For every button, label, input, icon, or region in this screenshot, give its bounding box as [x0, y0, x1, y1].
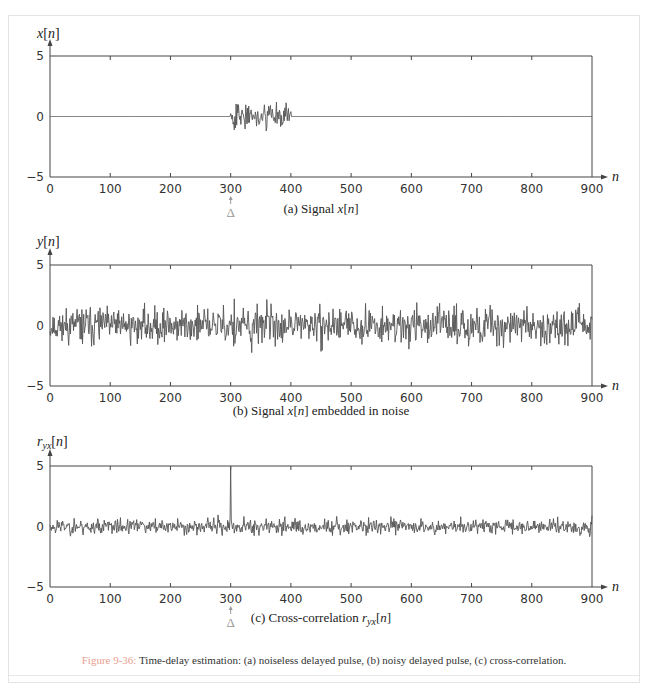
delta-arrow-icon	[229, 606, 233, 610]
y-axis-label: x[n]	[36, 26, 60, 41]
x-tick-label: 700	[460, 592, 483, 606]
figure-plots: 0100200300400500600700800900−505x[n]nΔ(a…	[0, 0, 648, 685]
y-tick-label: 0	[36, 319, 44, 333]
x-axis-label: n	[612, 378, 619, 393]
y-axis-arrow-icon	[48, 248, 53, 255]
x-axis-label: n	[612, 579, 619, 594]
signal-trace	[50, 299, 592, 353]
y-tick-label: 5	[36, 49, 44, 63]
panel-subtitle: (a) Signal x[n]	[283, 201, 358, 216]
delta-arrow-icon	[229, 196, 233, 200]
x-tick-label: 800	[520, 182, 543, 196]
x-tick-label: 100	[99, 592, 122, 606]
x-tick-label: 900	[581, 592, 604, 606]
x-tick-label: 400	[279, 182, 302, 196]
y-axis-label: ryx[n]	[37, 434, 68, 451]
y-tick-label: 5	[36, 258, 44, 272]
x-tick-label: 800	[520, 592, 543, 606]
x-axis-arrow-icon	[601, 384, 608, 389]
x-tick-label: 200	[159, 391, 182, 405]
y-tick-label: −5	[26, 170, 44, 184]
x-tick-label: 200	[159, 592, 182, 606]
x-tick-label: 0	[46, 592, 54, 606]
x-tick-label: 600	[400, 592, 423, 606]
x-tick-label: 300	[219, 592, 242, 606]
x-tick-label: 900	[581, 182, 604, 196]
x-tick-label: 400	[279, 592, 302, 606]
panel-b: 0100200300400500600700800900−505y[n]n(b)…	[26, 234, 619, 418]
delta-label: Δ	[226, 615, 234, 630]
x-tick-label: 0	[46, 182, 54, 196]
figure-caption: Figure 9-36: Time-delay estimation: (a) …	[0, 654, 648, 666]
x-tick-label: 700	[460, 391, 483, 405]
y-tick-label: 5	[36, 459, 44, 473]
y-tick-label: −5	[26, 379, 44, 393]
x-tick-label: 700	[460, 182, 483, 196]
x-tick-label: 800	[520, 391, 543, 405]
y-axis-label: y[n]	[35, 234, 60, 249]
x-tick-label: 600	[400, 182, 423, 196]
caption-divider	[9, 675, 639, 676]
figure-caption-text: Time-delay estimation: (a) noiseless del…	[136, 654, 566, 666]
delta-label: Δ	[226, 205, 234, 220]
y-tick-label: 0	[36, 110, 44, 124]
x-axis-arrow-icon	[601, 585, 608, 590]
x-tick-label: 200	[159, 182, 182, 196]
panel-subtitle: (b) Signal x[n] embedded in noise	[233, 403, 410, 418]
y-tick-label: 0	[36, 520, 44, 534]
x-axis-arrow-icon	[601, 175, 608, 180]
x-axis-label: n	[612, 169, 619, 184]
signal-trace	[50, 466, 592, 537]
panel-c: 0100200300400500600700800900−505ryx[n]nΔ…	[26, 434, 619, 630]
x-tick-label: 100	[99, 182, 122, 196]
x-tick-label: 900	[581, 391, 604, 405]
panel-a: 0100200300400500600700800900−505x[n]nΔ(a…	[26, 26, 619, 220]
x-tick-label: 500	[340, 182, 363, 196]
panel-subtitle: (c) Cross-correlation ryx[n]	[251, 610, 391, 627]
x-tick-label: 100	[99, 391, 122, 405]
x-tick-label: 300	[219, 182, 242, 196]
x-tick-label: 0	[46, 391, 54, 405]
signal-trace	[50, 102, 592, 131]
x-tick-label: 500	[340, 592, 363, 606]
y-tick-label: −5	[26, 580, 44, 594]
figure-label: Figure 9-36:	[82, 654, 137, 666]
